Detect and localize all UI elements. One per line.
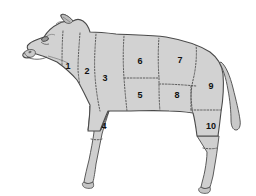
cut-label-8: 8 — [174, 90, 179, 100]
cow-body-shape — [23, 14, 224, 136]
cut-label-3: 3 — [102, 73, 107, 83]
beef-cuts-diagram: 1 2 3 4 5 6 7 8 9 10 — [0, 0, 256, 196]
body-group — [23, 14, 224, 136]
cut-label-4: 4 — [101, 121, 106, 131]
cow-outline-svg: 1 2 3 4 5 6 7 8 9 10 — [0, 0, 256, 196]
cut-label-5: 5 — [137, 90, 142, 100]
leg-division-lines-group — [91, 139, 217, 149]
cut-label-1: 1 — [65, 61, 70, 71]
hind-leg-group — [197, 136, 219, 193]
cut-label-6: 6 — [137, 56, 142, 66]
cut-label-9: 9 — [208, 81, 213, 91]
cut-label-10: 10 — [206, 121, 216, 131]
cut-label-2: 2 — [84, 66, 89, 76]
cut-label-7: 7 — [177, 55, 182, 65]
muzzle-shape — [25, 50, 36, 58]
hind-leg-shape — [197, 136, 219, 189]
